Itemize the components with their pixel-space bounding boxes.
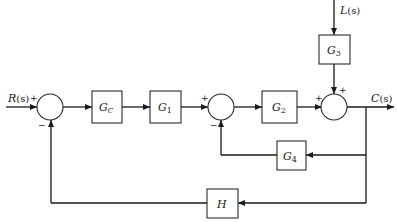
block-g2: G2 bbox=[262, 91, 297, 123]
input-label: R(s) bbox=[7, 92, 29, 105]
s1-minus-sign: − bbox=[38, 120, 46, 130]
disturbance-label: L(s) bbox=[339, 4, 360, 17]
s3-plus-sign-left: + bbox=[315, 93, 323, 103]
output-label: C(s) bbox=[371, 92, 392, 105]
s2-plus-sign: + bbox=[201, 93, 209, 103]
summing-junction-3 bbox=[321, 94, 347, 120]
inner-feedback-path: G4 bbox=[218, 120, 366, 170]
block-g1: G1 bbox=[150, 91, 181, 123]
block-gc: GC bbox=[92, 91, 122, 123]
s1-plus-sign: + bbox=[30, 93, 38, 103]
s3-plus-sign-top: + bbox=[339, 85, 347, 95]
input-signal: R(s) + bbox=[6, 92, 38, 110]
svg-text:H: H bbox=[216, 198, 227, 211]
block-g3: G3 bbox=[319, 35, 350, 64]
s2-minus-sign: − bbox=[210, 120, 218, 130]
disturbance-signal: L(s) bbox=[331, 0, 360, 35]
block-diagram: R(s) + − GC G1 + − G2 + bbox=[0, 0, 397, 222]
output-signal: C(s) bbox=[347, 92, 394, 110]
outer-feedback-path: H bbox=[48, 120, 366, 218]
